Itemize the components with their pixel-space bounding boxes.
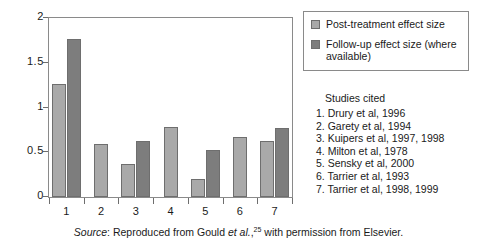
plot-frame xyxy=(48,17,293,198)
study-item-2: 2. Garety et al, 1994 xyxy=(313,120,477,133)
study-item-5: 5. Sensky et al, 2000 xyxy=(313,157,477,170)
source-text-after: with permission from Elsevier. xyxy=(261,226,403,238)
bar-post-treatment-2 xyxy=(94,144,108,197)
studies-cited-list: 1. Drury et al, 19962. Garety et al, 199… xyxy=(313,107,477,195)
source-caption: Source: Reproduced from Gould et al.,25 … xyxy=(0,226,477,239)
study-item-4: 4. Milton et al, 1978 xyxy=(313,145,477,158)
studies-cited-block: Studies cited 1. Drury et al, 19962. Gar… xyxy=(313,92,477,195)
study-item-6: 6. Tarrier et al, 1993 xyxy=(313,170,477,183)
figure-bar-chart-effect-sizes: 00.511.52 1234567 Post-treatment effect … xyxy=(0,0,477,247)
y-axis-tick-label: 0 xyxy=(10,190,44,201)
bar-follow-up-3 xyxy=(136,141,150,197)
bar-post-treatment-6 xyxy=(233,137,247,197)
y-axis-tick-label: 0.5 xyxy=(10,145,44,156)
studies-cited-title: Studies cited xyxy=(313,92,477,105)
source-text-before: Reproduced from Gould xyxy=(113,226,228,238)
legend-item-post-treatment: Post-treatment effect size xyxy=(311,18,462,31)
y-axis-tick-label: 1.5 xyxy=(10,56,44,67)
legend-swatch-post-treatment-icon xyxy=(311,20,320,29)
y-axis-tick-label: 1 xyxy=(10,101,44,112)
x-axis-tick-label-5: 5 xyxy=(195,205,215,218)
chart-plot-region: 00.511.52 1234567 xyxy=(0,0,300,215)
bar-post-treatment-3 xyxy=(121,164,135,197)
x-axis-tick-mark xyxy=(118,198,119,204)
legend-label-follow-up: Follow-up effect size (where available) xyxy=(326,38,462,63)
study-item-1: 1. Drury et al, 1996 xyxy=(313,107,477,120)
x-axis-tick-mark xyxy=(188,198,189,204)
y-axis-tick-label: 2 xyxy=(10,11,44,22)
x-axis-tick-mark xyxy=(84,198,85,204)
x-axis-tick-label-3: 3 xyxy=(126,205,146,218)
y-axis: 00.511.52 xyxy=(0,0,44,215)
x-axis-tick-label-4: 4 xyxy=(161,205,181,218)
source-etal: et al. xyxy=(228,226,251,238)
bar-follow-up-1 xyxy=(67,39,81,197)
x-axis-tick-label-2: 2 xyxy=(91,205,111,218)
bar-post-treatment-5 xyxy=(191,179,205,197)
study-item-3: 3. Kuipers et al, 1997, 1998 xyxy=(313,132,477,145)
x-axis: 1234567 xyxy=(48,198,294,220)
study-item-7: 7. Tarrier et al, 1998, 1999 xyxy=(313,183,477,196)
x-axis-tick-mark xyxy=(257,198,258,204)
x-axis-tick-mark xyxy=(153,198,154,204)
bar-post-treatment-7 xyxy=(260,141,274,197)
bars-layer xyxy=(49,18,292,197)
bar-follow-up-7 xyxy=(275,128,289,197)
legend-swatch-follow-up-icon xyxy=(311,40,320,49)
x-axis-tick-label-7: 7 xyxy=(265,205,285,218)
x-axis-tick-label-6: 6 xyxy=(230,205,250,218)
chart-legend: Post-treatment effect size Follow-up eff… xyxy=(303,11,469,71)
x-axis-tick-label-1: 1 xyxy=(56,205,76,218)
bar-post-treatment-1 xyxy=(52,84,66,197)
bar-follow-up-5 xyxy=(206,150,220,197)
x-axis-tick-mark xyxy=(223,198,224,204)
x-axis-tick-mark xyxy=(292,198,293,204)
legend-item-follow-up: Follow-up effect size (where available) xyxy=(311,38,462,63)
source-label: Source xyxy=(74,226,107,238)
legend-label-post-treatment: Post-treatment effect size xyxy=(326,18,445,31)
bar-post-treatment-4 xyxy=(164,127,178,197)
x-axis-tick-mark xyxy=(49,198,50,204)
